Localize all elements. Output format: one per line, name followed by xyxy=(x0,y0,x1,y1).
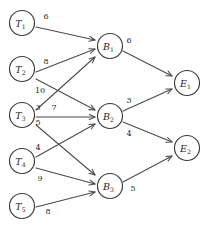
edge-weight-b1-e1: 6 xyxy=(126,36,131,45)
edge-weight-t3-b3: 5 xyxy=(35,118,40,127)
node-e2[interactable]: E2 xyxy=(175,136,200,161)
edge-weight-t2-b2: 10 xyxy=(35,86,45,95)
edge-b3-e2 xyxy=(123,156,172,182)
edge-weight-t3-b2: 7 xyxy=(51,103,56,112)
edge-weight-b3-e2: 5 xyxy=(130,184,135,193)
node-b2[interactable]: B2 xyxy=(98,104,123,129)
edge-t3-b3 xyxy=(36,125,95,175)
edge-t1-b1 xyxy=(36,27,95,41)
edge-weight-t5-b3: 8 xyxy=(45,207,50,216)
nodes-group: T1T2T3T4T5B1B2B3E1E2 xyxy=(10,11,200,219)
node-e1[interactable]: E1 xyxy=(175,71,200,96)
edge-t4-b3 xyxy=(36,168,95,185)
node-t1[interactable]: T1 xyxy=(10,11,35,36)
node-b1[interactable]: B1 xyxy=(98,34,123,59)
edge-weight-t2-b1: 8 xyxy=(43,57,48,66)
edge-weight-t3-b1: 3 xyxy=(35,103,40,112)
edge-t4-b2 xyxy=(36,124,95,157)
node-t2[interactable]: T2 xyxy=(10,57,35,82)
node-b3[interactable]: B3 xyxy=(98,174,123,199)
edge-b1-e1 xyxy=(123,51,172,76)
edge-weight-b2-e2: 4 xyxy=(126,129,131,138)
node-t5[interactable]: T5 xyxy=(10,194,35,219)
edge-weight-t1-b1: 6 xyxy=(43,12,48,21)
edge-weight-t4-b3: 9 xyxy=(37,174,42,183)
edge-weight-t4-b2: 4 xyxy=(35,143,40,152)
node-t3[interactable]: T3 xyxy=(10,103,35,128)
edge-t5-b3 xyxy=(36,191,95,207)
flow-network-diagram: T1T2T3T4T5B1B2B3E1E2 68103754986345 xyxy=(0,0,214,231)
node-t4[interactable]: T4 xyxy=(10,149,35,174)
edge-weight-b2-e1: 3 xyxy=(126,96,131,105)
diagram-canvas: T1T2T3T4T5B1B2B3E1E2 68103754986345 xyxy=(0,0,214,231)
edge-t3-b2 xyxy=(36,114,95,119)
